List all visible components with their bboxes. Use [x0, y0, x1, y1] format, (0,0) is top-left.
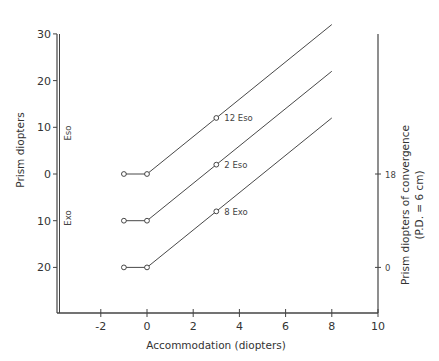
- series-line: [124, 118, 332, 267]
- x-tick-label: 10: [371, 320, 385, 333]
- data-point-marker: [214, 209, 219, 214]
- series-label: 8 Exo: [224, 207, 247, 217]
- x-tick-label: 4: [236, 320, 243, 333]
- series-label: 2 Eso: [224, 160, 247, 170]
- y2-axis-sublabel: (P.D. = 6 cm): [413, 170, 425, 239]
- x-tick-label: 2: [190, 320, 197, 333]
- chart-root: -20246810 30201001020 180 12 Eso2 Eso8 E…: [0, 0, 439, 361]
- series-lines: 12 Eso2 Eso8 Exo: [122, 25, 332, 270]
- series-label: 12 Eso: [224, 113, 253, 123]
- exo-region-label: Exo: [63, 210, 73, 225]
- x-tick-label: 8: [328, 320, 335, 333]
- data-point-marker: [214, 162, 219, 167]
- x-tick-label: 6: [282, 320, 289, 333]
- series-line: [124, 71, 332, 220]
- data-point-marker: [145, 172, 150, 177]
- y-tick-label: 10: [37, 121, 51, 134]
- data-point-marker: [145, 265, 150, 270]
- x-tick-label: 0: [144, 320, 151, 333]
- data-point-marker: [122, 218, 127, 223]
- y-ticks: 30201001020: [37, 28, 57, 275]
- y-tick-label: 20: [37, 261, 51, 274]
- data-point-marker: [122, 265, 127, 270]
- data-point-marker: [214, 116, 219, 121]
- y-tick-label: 20: [37, 75, 51, 88]
- y2-tick-label: 18: [385, 170, 396, 180]
- x-axis-label: Accommodation (diopters): [146, 339, 286, 351]
- axes: [57, 34, 378, 313]
- y2-axis-label: Prism diopters of convergence: [399, 125, 411, 285]
- y-axis-label: Prism diopters: [14, 112, 26, 187]
- data-point-marker: [122, 172, 127, 177]
- eso-region-label: Eso: [63, 126, 73, 141]
- data-point-marker: [145, 218, 150, 223]
- y-tick-label: 10: [37, 215, 51, 228]
- series-line: [124, 25, 332, 174]
- x-tick-label: -2: [95, 320, 106, 333]
- y-tick-label: 30: [37, 28, 51, 41]
- y2-tick-label: 0: [385, 263, 390, 273]
- y-tick-label: 0: [44, 168, 51, 181]
